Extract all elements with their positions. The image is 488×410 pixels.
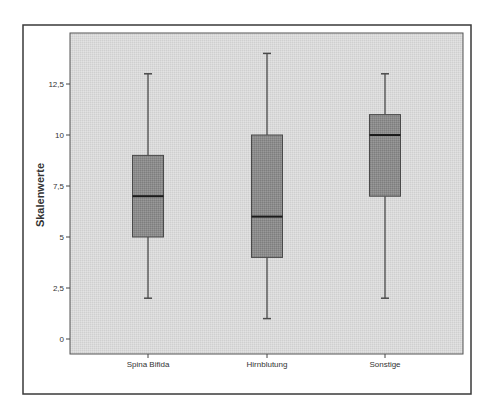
x-tick-label: Sonstige: [369, 360, 401, 369]
y-tick-label: 7,5: [53, 182, 65, 191]
y-tick-label: 10: [55, 131, 64, 140]
iqr-box: [370, 115, 401, 197]
chart-canvas: 02,557,51012,5 Spina BifidaHirnblutungSo…: [0, 0, 488, 410]
y-tick-label: 2,5: [53, 284, 65, 293]
y-axis-title: Skalenwerte: [34, 163, 46, 227]
boxplot-chart: 02,557,51012,5 Spina BifidaHirnblutungSo…: [0, 0, 488, 410]
x-tick-label: Spina Bifida: [127, 360, 170, 369]
y-tick-label: 12,5: [48, 80, 64, 89]
y-tick-label: 5: [60, 233, 65, 242]
iqr-box: [252, 135, 283, 257]
x-tick-label: Hirnblutung: [247, 360, 288, 369]
y-tick-label: 0: [60, 335, 65, 344]
